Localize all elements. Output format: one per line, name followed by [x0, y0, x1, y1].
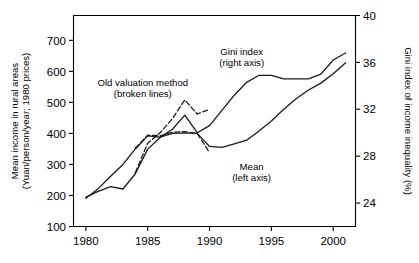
annotation-label: Old valuation method [97, 77, 188, 88]
y2-axis-tick-label: 40 [363, 10, 376, 22]
y2-axis-tick-label: 24 [363, 197, 376, 209]
y2-axis-title: Gini index of income inequality (%) [403, 47, 414, 195]
annotation-sublabel: (left axis) [232, 172, 271, 183]
y-axis-tick-label: 700 [47, 35, 66, 47]
y-axis-tick-label: 300 [47, 159, 66, 171]
y-axis-tick-label: 400 [47, 128, 66, 140]
chart-figure: 1002003004005006007002428323640198019851… [0, 0, 419, 263]
chart-svg: 1002003004005006007002428323640198019851… [0, 0, 419, 263]
y-axis-tick-label: 500 [47, 97, 66, 109]
y2-axis-tick-label: 36 [363, 57, 376, 69]
y-axis-tick-label: 600 [47, 66, 66, 78]
series-line-1 [135, 132, 209, 153]
y-axis-tick-label: 200 [47, 190, 66, 202]
series-line-2 [86, 53, 346, 197]
y-axis-tick-label: 100 [47, 221, 66, 233]
annotation-sublabel: (right axis) [219, 57, 264, 68]
x-axis-tick-label: 1985 [135, 235, 161, 247]
x-axis-tick-label: 1995 [259, 235, 285, 247]
x-axis-tick-label: 1980 [73, 235, 99, 247]
x-axis-tick-label: 1990 [197, 235, 223, 247]
y-axis-title-line1: Mean income in rural areas [9, 63, 20, 179]
plot-frame [74, 16, 356, 227]
annotation-sublabel: (broken lines) [114, 88, 172, 99]
x-axis-tick-label: 2000 [320, 235, 346, 247]
y-axis-title-line2: (Yuan/person/year; 1980 prices) [20, 53, 31, 190]
y2-axis-tick-label: 32 [363, 103, 376, 115]
annotation-label: Mean [240, 161, 264, 172]
annotation-label: Gini index [220, 46, 263, 57]
y2-axis-tick-label: 28 [363, 150, 376, 162]
